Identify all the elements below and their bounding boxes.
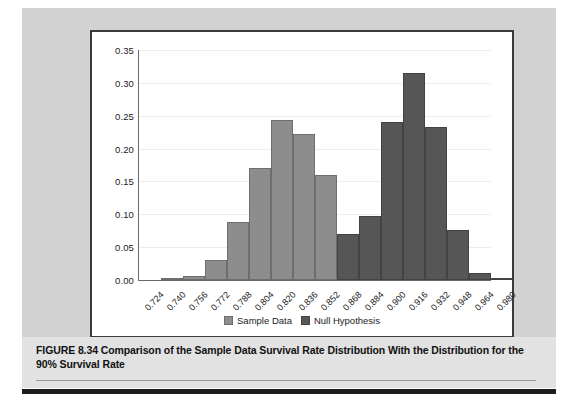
legend-item: Sample Data: [224, 315, 292, 326]
x-axis-tick-label: 0.948: [451, 290, 474, 313]
gridline: [139, 83, 491, 84]
y-axis-tick-label: 0.15: [115, 176, 134, 187]
y-axis-tick-label: 0.35: [115, 45, 134, 56]
bar: [381, 122, 403, 280]
bar: [205, 260, 227, 280]
bar: [447, 230, 469, 280]
chart-frame: 0.000.050.100.150.200.250.300.35 0.7240.…: [90, 30, 514, 338]
y-axis-tick-label: 0.10: [115, 209, 134, 220]
legend-item: Null Hypothesis: [301, 315, 380, 326]
caption-divider: [36, 380, 536, 381]
bar: [491, 278, 513, 280]
bar: [249, 168, 271, 280]
x-axis-tick-label: 0.756: [187, 290, 210, 313]
bar: [425, 127, 447, 280]
plot-area: 0.000.050.100.150.200.250.300.35 0.7240.…: [138, 50, 491, 281]
x-axis-tick-label: 0.868: [341, 290, 364, 313]
x-axis-tick-label: 0.900: [385, 290, 408, 313]
gridline: [139, 50, 491, 51]
bar: [161, 278, 183, 280]
bar: [359, 216, 381, 280]
legend-swatch-icon: [224, 316, 233, 325]
bar: [293, 134, 315, 280]
legend-label: Null Hypothesis: [314, 315, 380, 326]
x-axis-tick-label: 0.804: [253, 290, 276, 313]
x-axis-tick-label: 0.916: [407, 290, 430, 313]
figure-panel: 0.000.050.100.150.200.250.300.35 0.7240.…: [22, 8, 556, 388]
figure-caption: FIGURE 8.34 Comparison of the Sample Dat…: [36, 343, 536, 371]
gridline: [139, 116, 491, 117]
bar: [271, 120, 293, 280]
y-axis-tick-label: 0.20: [115, 143, 134, 154]
chart-legend: Sample DataNull Hypothesis: [92, 315, 512, 326]
bar: [227, 222, 249, 280]
plot-wrapper: 0.000.050.100.150.200.250.300.35 0.7240.…: [92, 32, 512, 336]
x-axis-tick-label: 0.980: [495, 290, 518, 313]
y-axis-tick-label: 0.05: [115, 242, 134, 253]
bar: [183, 276, 205, 280]
x-axis-tick-label: 0.740: [165, 290, 188, 313]
x-axis-tick-label: 0.852: [319, 290, 342, 313]
x-axis-tick-label: 0.932: [429, 290, 452, 313]
bar: [315, 175, 337, 280]
x-axis-tick-label: 0.964: [473, 290, 496, 313]
caption-block: FIGURE 8.34 Comparison of the Sample Dat…: [22, 337, 556, 388]
y-axis-tick-label: 0.00: [115, 275, 134, 286]
y-axis-tick-label: 0.25: [115, 110, 134, 121]
page-bottom-bar: [22, 389, 556, 394]
legend-swatch-icon: [301, 316, 310, 325]
x-axis-tick-label: 0.820: [275, 290, 298, 313]
x-axis-tick-label: 0.884: [363, 290, 386, 313]
y-axis-tick-label: 0.30: [115, 77, 134, 88]
legend-label: Sample Data: [237, 315, 292, 326]
x-axis-tick-label: 0.788: [231, 290, 254, 313]
x-axis-tick-label: 0.772: [209, 290, 232, 313]
figure-page: 0.000.050.100.150.200.250.300.35 0.7240.…: [0, 0, 578, 406]
bar: [403, 73, 425, 280]
x-axis-tick-label: 0.836: [297, 290, 320, 313]
bar: [469, 273, 491, 280]
bar: [337, 234, 359, 280]
x-axis-tick-label: 0.724: [143, 290, 166, 313]
